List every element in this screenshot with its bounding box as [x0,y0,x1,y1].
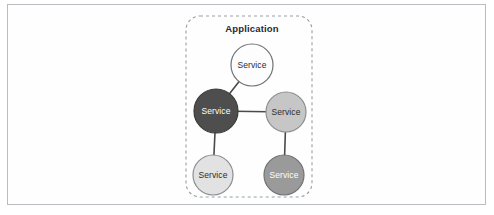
node-service-bottom-left[interactable] [193,155,233,195]
node-service-top[interactable] [231,44,273,86]
application-group-label: Application [225,23,278,34]
node-service-center-left[interactable] [194,89,238,133]
node-layer [193,44,306,195]
figure-root: Application ServiceServiceServiceService… [0,0,494,215]
node-service-center-right[interactable] [266,92,306,132]
node-service-bottom-right[interactable] [264,155,304,195]
